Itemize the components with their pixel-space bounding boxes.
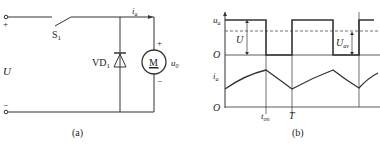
caption-b: (b) xyxy=(292,127,304,139)
label-ua: ua xyxy=(213,15,221,26)
plus-motor: + xyxy=(157,38,162,48)
label-amplitude: U xyxy=(236,34,244,45)
label-period: T xyxy=(289,110,296,121)
switch-s1 xyxy=(55,17,71,26)
diagram-canvas: + − U S1 VD1 M u0 ia + − (a) ua ia O O U… xyxy=(0,0,380,144)
label-vd1: VD1 xyxy=(92,57,110,70)
origin-top: O xyxy=(213,49,220,60)
label-uav: Uav xyxy=(336,37,349,49)
label-ton: ton xyxy=(261,111,270,122)
current-arrow xyxy=(148,15,153,19)
origin-bottom: O xyxy=(213,102,220,113)
current-waveform xyxy=(225,70,378,89)
label-ia: ia xyxy=(132,6,138,17)
label-u0: u0 xyxy=(171,58,179,69)
circuit-a xyxy=(4,15,166,114)
caption-a: (a) xyxy=(72,127,83,139)
terminal-bottom xyxy=(4,110,8,114)
waveform-b xyxy=(225,12,380,114)
minus-left: − xyxy=(3,100,8,110)
label-m: M xyxy=(149,57,158,68)
label-u: U xyxy=(3,65,12,77)
label-ia-axis: ia xyxy=(213,71,219,82)
minus-motor: − xyxy=(157,76,162,86)
plus-left: + xyxy=(3,19,8,29)
label-s1: S1 xyxy=(52,29,62,42)
